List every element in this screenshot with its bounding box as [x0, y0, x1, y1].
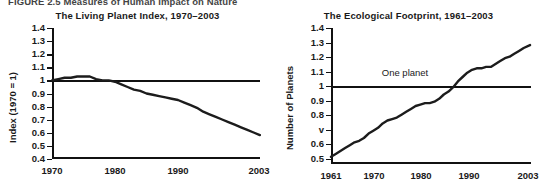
- y-tick-label: 0.6: [311, 139, 324, 149]
- chart-panel-living-planet-index: The Living Planet Index, 1970–2003 Index…: [0, 0, 275, 192]
- x-tick-label: 1961: [320, 171, 341, 181]
- y-tick-label: 1.1: [311, 67, 324, 77]
- series-line-ecological-footprint: [331, 28, 531, 164]
- x-tick: [52, 154, 53, 159]
- y-tick-label: 1.3: [32, 36, 45, 46]
- plot-area: 1.4 1.3 1.2 1.1 1 0.9 0.8 v 0.6 0.5 One …: [331, 28, 531, 164]
- y-tick-label: 1.3: [311, 38, 324, 48]
- y-tick-label: 0.7: [32, 115, 45, 125]
- y-tick-label: 0.9: [311, 96, 324, 106]
- y-tick-label: 1.2: [32, 49, 45, 59]
- y-tick-label: 1: [319, 81, 324, 91]
- y-tick-label: 0.6: [32, 128, 45, 138]
- y-axis-title: Number of Planets: [285, 66, 295, 150]
- y-tick-label: 0.5: [32, 141, 45, 151]
- y-tick-label: 0.8: [311, 110, 324, 120]
- x-tick-label: 1990: [167, 166, 188, 176]
- y-tick-label: 1.1: [32, 63, 45, 73]
- chart-title: The Ecological Footprint, 1961–2003: [275, 10, 542, 21]
- x-tick-label: 1970: [363, 171, 384, 181]
- y-tick-label: v: [319, 125, 324, 135]
- x-tick-label: 1980: [410, 171, 431, 181]
- y-axis-title: Index (1970 = 1): [8, 72, 18, 143]
- y-tick-label: 0.8: [32, 102, 45, 112]
- y-tick-label: 0.9: [32, 89, 45, 99]
- plot-area: 1.4 1.3 1.2 1.1 1 0.9 0.8 0.7 0.6 0.5 0.…: [52, 28, 260, 159]
- x-tick-label: 1970: [41, 166, 62, 176]
- y-tick-label: 1.2: [311, 52, 324, 62]
- chart-title: The Living Planet Index, 1970–2003: [0, 10, 275, 21]
- y-tick-label: 1.4: [32, 23, 45, 33]
- x-tick-label: 2003: [517, 171, 538, 181]
- x-tick-label: 2003: [248, 166, 269, 176]
- x-tick-label: 1980: [104, 166, 125, 176]
- x-tick: [331, 159, 332, 164]
- y-tick-label: 0.4: [32, 154, 45, 164]
- y-tick-label: 1: [40, 76, 45, 86]
- series-line-living-planet-index: [52, 28, 260, 159]
- y-tick: [47, 159, 52, 160]
- x-tick-label: 1990: [458, 171, 479, 181]
- y-tick-label: 0.5: [311, 154, 324, 164]
- y-tick-label: 1.4: [311, 23, 324, 33]
